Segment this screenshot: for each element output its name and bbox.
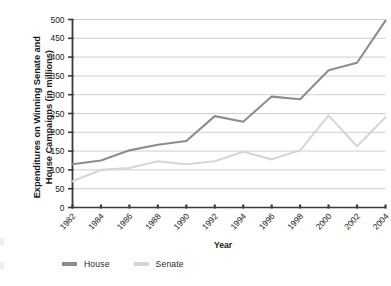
y-tick-label: 50 [55, 184, 65, 194]
y-tick-label: 500 [51, 15, 65, 25]
y-tick-label: 250 [51, 109, 65, 119]
y-tick-label: 400 [51, 52, 65, 62]
x-tick-label: 1990 [171, 211, 191, 232]
x-axis-title: Year [55, 240, 391, 250]
scan-artifact-upper [0, 238, 4, 245]
x-tick-label: 1992 [200, 211, 220, 232]
x-tick-label: 2002 [342, 211, 362, 232]
y-tick-label: 350 [51, 71, 65, 81]
gridlines [73, 20, 386, 189]
chart-legend: House Senate [58, 259, 322, 269]
data-series [73, 21, 386, 182]
x-tick-label: 1988 [143, 211, 163, 232]
scan-artifact-lower [0, 262, 4, 269]
y-tick-labels: 050100150200250300350400450500 [51, 15, 65, 213]
line-chart: Expenditures on Winning Senate and House… [0, 0, 391, 286]
y-tick-label: 100 [51, 165, 65, 175]
y-tick-label: 150 [51, 146, 65, 156]
x-tick-label: 1996 [257, 211, 277, 232]
y-tick-label: 300 [51, 90, 65, 100]
series-line-house [73, 21, 386, 165]
x-tick-label: 1998 [285, 211, 305, 232]
x-tick-label: 2004 [371, 211, 391, 232]
x-tick-label: 1986 [114, 211, 134, 232]
x-tick-label: 1982 [58, 211, 78, 232]
y-tick-label: 0 [60, 203, 65, 213]
legend-label-senate: Senate [156, 259, 184, 269]
legend-swatch-house [62, 262, 77, 266]
series-line-senate [73, 115, 386, 181]
x-tick-label: 1994 [228, 211, 248, 232]
y-tick-label: 200 [51, 127, 65, 137]
x-tick-label: 2000 [314, 211, 334, 232]
x-tick-label: 1984 [86, 211, 106, 232]
x-tick-labels: 1982198419861988199019921994199619982000… [58, 211, 391, 232]
legend-item-senate[interactable]: Senate [134, 259, 184, 269]
legend-swatch-senate [134, 262, 149, 266]
y-tick-label: 450 [51, 33, 65, 43]
legend-item-house[interactable]: House [62, 259, 110, 269]
legend-label-house: House [84, 259, 110, 269]
